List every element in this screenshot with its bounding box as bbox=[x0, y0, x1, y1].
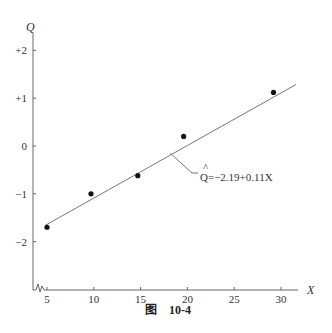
data-point bbox=[44, 225, 49, 230]
y-tick-label: 0 bbox=[22, 140, 28, 152]
y-tick-label: +1 bbox=[15, 92, 27, 104]
equation-label: Q=−2.19+0.11X bbox=[200, 171, 273, 183]
y-tick-label: +2 bbox=[15, 44, 27, 56]
regression-line bbox=[45, 85, 296, 226]
x-tick-label: 25 bbox=[229, 293, 241, 305]
figure-caption-prefix: 图 bbox=[145, 303, 157, 317]
data-point bbox=[88, 191, 93, 196]
x-tick-label: 30 bbox=[276, 293, 288, 305]
x-tick-label: 10 bbox=[88, 293, 100, 305]
y-tick-label: −1 bbox=[15, 188, 27, 200]
x-axis-break bbox=[33, 284, 44, 292]
scatter-regression-chart: +2+10−1−2 51015202530 Q X ^ Q=−2.19+0.11… bbox=[0, 0, 332, 333]
figure-caption-number: 10-4 bbox=[169, 303, 191, 317]
y-tick-label: −2 bbox=[15, 236, 27, 248]
data-points bbox=[44, 90, 276, 230]
x-tick-label: 5 bbox=[44, 293, 50, 305]
equation-leader-line bbox=[170, 153, 198, 173]
y-axis-title: Q bbox=[26, 20, 35, 34]
data-point bbox=[271, 90, 276, 95]
data-point bbox=[181, 134, 186, 139]
data-point bbox=[135, 173, 140, 178]
x-axis-title: X bbox=[306, 283, 315, 297]
